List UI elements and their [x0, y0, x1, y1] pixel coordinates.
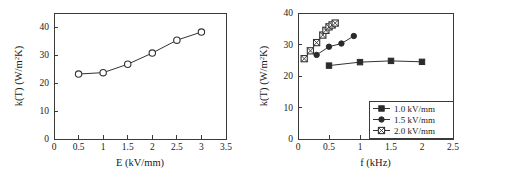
left-chart-svg: 00.511.522.533.5010203040E (kV/mm)k(T) (…: [0, 0, 253, 186]
x-tick-label: 1.5: [385, 142, 397, 152]
data-point-open-circle: [149, 50, 155, 56]
y-tick-label: 40: [40, 22, 50, 32]
data-point-filled-square: [419, 59, 424, 64]
svg-text:k(T) (W/m2K): k(T) (W/m2K): [258, 45, 270, 106]
data-point-open-circle: [100, 69, 106, 75]
y-tick-label: 10: [40, 106, 50, 116]
data-point-crossed-square: [314, 40, 320, 46]
x-tick-label: 3.5: [220, 142, 232, 152]
data-point-open-circle: [125, 61, 131, 67]
y-axis-title: k(T) (W/m2K): [258, 45, 270, 106]
y-tick-label: 0: [288, 134, 293, 144]
data-point-filled-square: [388, 58, 393, 63]
y-tick-label: 10: [284, 103, 294, 113]
x-tick-label: 1.5: [122, 142, 134, 152]
x-tick-label: 0.5: [323, 142, 335, 152]
svg-text:k(T) (W/m2K): k(T) (W/m2K): [13, 45, 25, 106]
y-tick-label: 30: [284, 40, 294, 50]
left-chart-panel: 00.511.522.533.5010203040E (kV/mm)k(T) (…: [0, 0, 253, 186]
x-tick-label: 0: [52, 142, 57, 152]
data-point-crossed-square: [307, 48, 313, 54]
data-point-filled-circle: [314, 52, 319, 57]
y-tick-label: 20: [40, 78, 50, 88]
data-point-filled-square: [326, 63, 331, 68]
y-tick-label: 40: [284, 8, 294, 18]
x-tick-label: 2.5: [171, 142, 183, 152]
x-tick-label: 1: [101, 142, 106, 152]
x-axis-title: f (kHz): [360, 157, 391, 169]
series-line: [317, 36, 354, 55]
x-tick-label: 2: [420, 142, 425, 152]
data-point-filled-circle: [339, 41, 344, 46]
x-tick-label: 2: [150, 142, 155, 152]
series-line: [79, 32, 202, 74]
x-axis-title: E (kV/mm): [116, 157, 165, 169]
y-axis-title: k(T) (W/m2K): [13, 45, 25, 106]
x-tick-label: 3: [199, 142, 204, 152]
legend-label: 1.5 kV/mm: [394, 115, 435, 125]
data-point-crossed-square: [301, 56, 307, 62]
legend-label: 2.0 kV/mm: [394, 126, 435, 136]
x-tick-label: 2.5: [447, 142, 459, 152]
legend-label: 1.0 kV/mm: [394, 104, 435, 114]
series-line: [329, 61, 422, 66]
legend: 1.0 kV/mm1.5 kV/mm2.0 kV/mm: [369, 101, 453, 138]
data-point-filled-circle: [326, 44, 331, 49]
y-tick-label: 30: [40, 50, 50, 60]
figure-container: 00.511.522.533.5010203040E (kV/mm)k(T) (…: [0, 0, 507, 186]
data-point-filled-circle: [351, 33, 356, 38]
y-tick-label: 20: [284, 71, 294, 81]
data-point-open-circle: [75, 71, 81, 77]
x-tick-label: 1: [358, 142, 363, 152]
right-chart-panel: 00.511.522.5010203040f (kHz)k(T) (W/m2K)…: [253, 0, 507, 186]
data-point-filled-circle: [379, 117, 384, 122]
data-point-open-circle: [174, 37, 180, 43]
data-point-filled-square: [357, 59, 362, 64]
x-tick-label: 0: [296, 142, 301, 152]
right-chart-svg: 00.511.522.5010203040f (kHz)k(T) (W/m2K)…: [253, 0, 507, 186]
data-point-filled-square: [379, 106, 384, 111]
data-point-open-circle: [198, 29, 204, 35]
y-tick-label: 0: [44, 134, 49, 144]
x-tick-label: 0.5: [73, 142, 85, 152]
data-point-crossed-square: [332, 20, 338, 26]
data-point-crossed-square: [378, 127, 384, 133]
